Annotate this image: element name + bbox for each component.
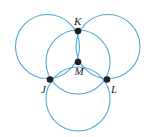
upper-left-circle — [16, 15, 80, 79]
geometry-figure: KMJL — [0, 0, 152, 137]
point-J-marker — [47, 76, 54, 83]
point-L-marker — [104, 76, 111, 83]
geometry-canvas — [0, 0, 152, 137]
point-M-marker — [75, 59, 82, 66]
upper-right-circle — [76, 15, 140, 79]
point-K-marker — [75, 28, 82, 35]
bottom-circle — [46, 67, 110, 131]
